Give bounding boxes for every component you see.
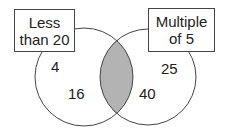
right-value: 25 xyxy=(161,60,178,77)
right-label-line1: Multiple xyxy=(156,13,208,30)
right-set-label: Multipleof 5 xyxy=(148,8,215,52)
left-label-line2: than 20 xyxy=(19,31,69,48)
right-label-line2: of 5 xyxy=(169,30,194,47)
left-value: 4 xyxy=(51,58,59,75)
left-value: 16 xyxy=(68,85,85,102)
right-value: 40 xyxy=(139,85,156,102)
left-label-line1: Less xyxy=(29,14,61,31)
left-set-label: Lessthan 20 xyxy=(14,9,75,52)
